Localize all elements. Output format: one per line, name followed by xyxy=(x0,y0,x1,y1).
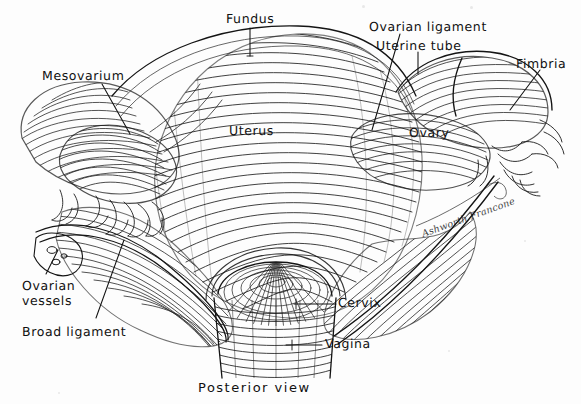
scan-speck xyxy=(362,5,365,8)
fundus-rim xyxy=(112,26,416,96)
leader-broad-ligament xyxy=(96,240,124,318)
scan-speck xyxy=(470,6,473,9)
label-ovarian-vessels: Ovarian vessels xyxy=(22,279,75,309)
label-ovary: Ovary xyxy=(409,126,449,141)
scan-speck xyxy=(448,350,450,352)
left-uterine-tube-outline xyxy=(21,82,179,194)
lower-right-contour xyxy=(334,176,498,344)
label-broad-ligament: Broad ligament xyxy=(22,325,126,340)
broad-ligament-right-outline xyxy=(324,212,476,339)
uterus-secondary-hatching xyxy=(148,48,414,284)
leader-fimbria xyxy=(510,70,540,110)
label-ovarian-ligament: Ovarian ligament xyxy=(369,20,487,35)
label-uterus: Uterus xyxy=(229,124,274,139)
right-fimbriae xyxy=(468,120,564,196)
label-fimbria: Fimbria xyxy=(516,57,566,72)
label-cervix: Cervix xyxy=(338,296,381,311)
ovarian-vessels-cut-ends xyxy=(34,233,82,276)
scan-speck xyxy=(58,392,60,394)
vagina-banding xyxy=(212,300,338,378)
label-uterine-tube: Uterine tube xyxy=(376,39,462,54)
plate-caption: Posterior view xyxy=(198,380,311,395)
left-fimbriae xyxy=(52,190,164,237)
scan-speck xyxy=(524,240,526,242)
label-mesovarium: Mesovarium xyxy=(42,69,124,84)
label-vagina: Vagina xyxy=(325,337,371,352)
anatomical-plate: Fundus Mesovarium Ovarian ligament Uteri… xyxy=(0,0,581,404)
label-fundus: Fundus xyxy=(226,12,274,27)
